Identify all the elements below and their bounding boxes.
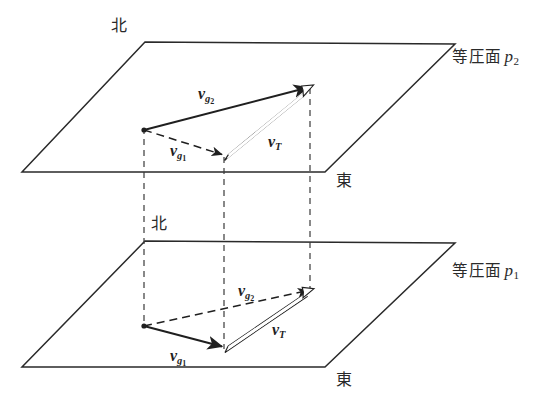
- lower-plane-name-text: 等圧面: [452, 262, 502, 280]
- lower-plane-north-label: 北: [151, 216, 168, 232]
- upper-origin-point: [141, 127, 146, 132]
- upper-vector-group: [141, 85, 313, 160]
- label-upper-vT: vT: [268, 134, 282, 153]
- thermal-wind-diagram: 北 東 等圧面p2 北 東 等圧面p1 vg2 vg1 vT vg2 vg1 v…: [0, 0, 534, 407]
- label-upper-vg2-sub: g2: [205, 93, 214, 104]
- label-upper-vT-sub: T: [275, 141, 281, 152]
- lower-plane-east-label: 東: [336, 372, 353, 388]
- upper-plane-outline: [22, 42, 455, 172]
- upper-plane-east-label: 東: [336, 173, 353, 189]
- label-upper-vg2: vg2: [198, 86, 214, 106]
- lower-plane-subscript: 1: [514, 269, 520, 281]
- label-upper-vg1-sub-index: 1: [182, 154, 186, 163]
- upper-plane-symbol: p: [502, 47, 514, 66]
- label-lower-vg2-sub-index: 2: [250, 294, 254, 303]
- label-lower-vT-sub: T: [279, 329, 285, 340]
- upper-plane-subscript: 2: [514, 55, 520, 67]
- label-lower-vg1: vg1: [170, 348, 186, 368]
- vector-upper-vg2: [144, 88, 308, 131]
- vector-lower-vg1: [144, 326, 222, 347]
- label-lower-vg2: vg2: [238, 283, 254, 303]
- upper-isobaric-plane: [22, 42, 455, 172]
- upper-plane-north-label: 北: [111, 18, 128, 34]
- upper-plane-name: 等圧面p2: [452, 48, 520, 67]
- lower-plane-name: 等圧面p1: [452, 262, 520, 281]
- lower-plane-outline: [22, 241, 455, 367]
- lower-origin-point: [141, 323, 146, 328]
- upper-plane-name-text: 等圧面: [452, 48, 502, 66]
- lower-vector-group: [141, 287, 314, 352]
- label-upper-vg1: vg1: [170, 143, 186, 163]
- label-lower-vT: vT: [272, 322, 286, 341]
- label-lower-vg1-sub: g1: [177, 355, 186, 366]
- label-lower-vg1-sub-index: 1: [182, 359, 186, 368]
- label-upper-vg1-sub: g1: [177, 150, 186, 161]
- label-lower-vg2-sub: g2: [245, 290, 254, 301]
- label-upper-vg2-sub-index: 2: [210, 97, 214, 106]
- lower-isobaric-plane: [22, 241, 455, 367]
- lower-plane-symbol: p: [502, 261, 514, 280]
